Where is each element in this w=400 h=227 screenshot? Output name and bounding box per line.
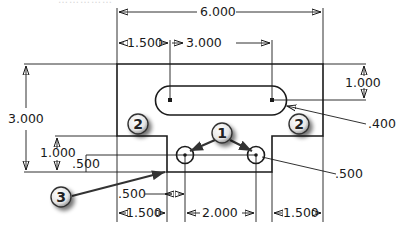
dim-hole-height: .500 xyxy=(72,156,100,171)
dim-left-tab-width: 1.500 xyxy=(126,205,162,220)
dim-hole-spacing: 2.000 xyxy=(202,205,238,220)
dim-hole-diameter: .500 xyxy=(335,166,363,181)
dim-notch-depth: 1.000 xyxy=(40,145,76,160)
dim-right-tab-width: 1.500 xyxy=(283,205,319,220)
dim-hole-offset: .500 xyxy=(118,186,146,201)
dim-slot-height: 1.000 xyxy=(345,75,381,90)
balloon-2-right-label: 2 xyxy=(294,116,304,132)
balloon-3-label: 3 xyxy=(56,189,66,205)
dim-slot-offset: 1.500 xyxy=(127,35,163,50)
dim-slot-radius: .400 xyxy=(368,116,396,131)
dim-overall-width: 6.000 xyxy=(200,4,236,19)
balloon-1-label: 1 xyxy=(217,125,227,141)
balloon-2-left-label: 2 xyxy=(133,116,143,132)
slot xyxy=(156,86,287,115)
dim-overall-height: 3.000 xyxy=(8,111,44,126)
technical-drawing: 6.000 1.500 3.000 3.000 1.000 .400 1.000… xyxy=(0,0,400,227)
dim-slot-length: 3.000 xyxy=(186,35,222,50)
